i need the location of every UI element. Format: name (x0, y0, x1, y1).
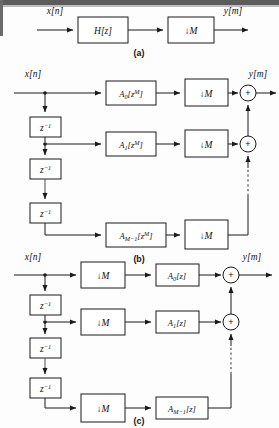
panel-a-input-label: x[n] (46, 6, 64, 16)
panel-b-branch-wire-2 (45, 223, 101, 235)
panel-c-adder-0-label: + (228, 270, 233, 280)
panel-b-filter-label-0: A0[zM] (118, 88, 143, 101)
panel-c-input-label: x[n] (24, 252, 42, 262)
panel-c-caption: (c) (134, 416, 145, 426)
panel-b-decimator-label-0: ↓M (200, 89, 214, 99)
panel-a-filter-label: H[z] (93, 26, 112, 36)
panel-b-filter-label-1: A1[zM] (118, 139, 143, 152)
panel-a-decimator-label: ↓M (185, 26, 199, 36)
panel-b-output-label: y[m] (248, 69, 268, 79)
panel-b: x[n] A0[zM] ↓M + y[m] z−1 A1[zM] (14, 69, 276, 264)
top-scan-band-light (0, 5, 279, 7)
panel-c-decimator-label-0: ↓M (97, 271, 111, 281)
panel-b-adder-1-label: + (245, 139, 250, 149)
panel-a-output-label: y[m] (223, 6, 243, 16)
figure-canvas: H[z] ↓M x[n] y[m] (a) x[n] A0[zM] (0, 0, 279, 428)
panel-b-decimator-label-1: ↓M (200, 140, 214, 150)
panel-c-filter-label-0: A0[z] (167, 271, 186, 282)
panel-c: x[n] ↓M A0[z] + y[m] z−1 ↓M A1[z] (14, 252, 272, 426)
panel-c-decimator-label-2: ↓M (97, 404, 111, 414)
panel-b-decimator-label-2: ↓M (200, 231, 214, 241)
panel-a-caption: (a) (134, 48, 145, 58)
panel-b-input-label: x[n] (24, 69, 42, 79)
panel-c-adder-1-label: + (228, 317, 233, 327)
panel-c-decimator-label-1: ↓M (97, 318, 111, 328)
panel-b-adder-0-label: + (245, 88, 250, 98)
panel-b-wire-d2-up (228, 196, 248, 235)
panel-c-wire-f2-up (208, 374, 231, 408)
panel-b-caption: (b) (133, 254, 144, 264)
panel-c-output-label: y[m] (242, 252, 262, 262)
left-scan-band (0, 0, 3, 36)
block-diagram-svg: H[z] ↓M x[n] y[m] (a) x[n] A0[zM] (0, 0, 279, 428)
panel-c-filter-label-1: A1[z] (167, 318, 186, 329)
panel-c-branch-wire-2 (45, 398, 76, 408)
panel-a: H[z] ↓M x[n] y[m] (a) (37, 6, 248, 58)
